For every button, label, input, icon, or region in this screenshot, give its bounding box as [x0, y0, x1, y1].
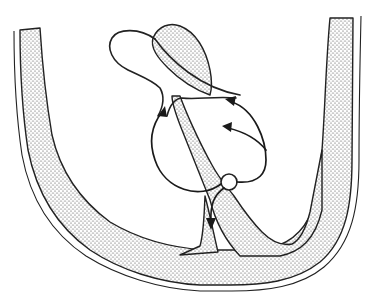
- arrowhead-right-lower: [222, 122, 232, 132]
- upper-lobe: [152, 25, 211, 96]
- anatomical-diagram: [0, 0, 384, 297]
- arrow-right-upper: [232, 102, 266, 182]
- diagram-canvas: [0, 0, 384, 297]
